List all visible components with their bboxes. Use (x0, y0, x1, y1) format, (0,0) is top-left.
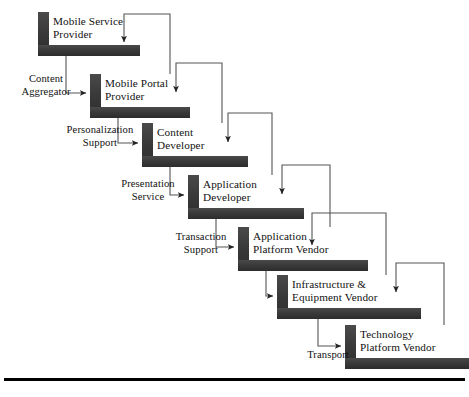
stage-label-mobile-portal-provider: Mobile PortalProvider (105, 77, 168, 104)
flow-label-line1-transaction-support: Transaction (155, 230, 247, 243)
stage-label-line2-infrastructure-equipment-vendor: Equipment Vendor (292, 291, 378, 304)
stage-label-line2-content-developer: Developer (157, 139, 205, 152)
bottom-rule (4, 378, 465, 381)
stage-bar-foot-application-developer (188, 208, 304, 219)
flow-label-transaction-support: TransactionSupport (155, 230, 247, 256)
flow-connector-equipment-link (266, 271, 273, 296)
stage-label-line1-mobile-service-provider: Mobile Service (53, 15, 123, 28)
flow-label-line1-content-aggregator: Content (8, 72, 84, 85)
stage-label-line1-application-platform-vendor: Application (253, 230, 329, 243)
stage-label-line2-application-developer: Developer (203, 191, 257, 204)
stage-label-line1-technology-platform-vendor: Technology (360, 328, 436, 341)
flow-connector-transport (318, 319, 341, 346)
stage-label-line2-mobile-service-provider: Provider (53, 28, 123, 41)
stage-label-line1-infrastructure-equipment-vendor: Infrastructure & (292, 278, 378, 291)
flow-label-transport: Transport (292, 348, 364, 361)
stage-label-application-developer: ApplicationDeveloper (203, 178, 257, 205)
stage-bar-foot-application-platform-vendor (238, 260, 368, 271)
stage-label-application-platform-vendor: ApplicationPlatform Vendor (253, 230, 329, 257)
flow-label-line1-personalization-support: Personalization (48, 123, 152, 136)
flow-label-line1-transport: Transport (292, 348, 364, 361)
stage-label-line1-content-developer: Content (157, 126, 205, 139)
flow-label-line2-transaction-support: Support (155, 243, 247, 256)
stage-label-content-developer: ContentDeveloper (157, 126, 205, 153)
stage-label-infrastructure-equipment-vendor: Infrastructure &Equipment Vendor (292, 278, 378, 305)
flow-label-line2-content-aggregator: Aggregator (8, 85, 84, 98)
flow-label-line2-personalization-support: Support (48, 136, 152, 149)
flow-label-line2-presentation-service: Service (100, 190, 196, 203)
flow-label-presentation-service: PresentationService (100, 177, 196, 203)
stage-label-line2-application-platform-vendor: Platform Vendor (253, 243, 329, 256)
stage-label-line1-application-developer: Application (203, 178, 257, 191)
flow-label-line1-presentation-service: Presentation (100, 177, 196, 190)
stage-label-line1-mobile-portal-provider: Mobile Portal (105, 77, 168, 90)
value-chain-diagram: Mobile ServiceProviderMobile PortalProvi… (0, 0, 469, 397)
flow-label-personalization-support: PersonalizationSupport (48, 123, 152, 149)
stage-label-mobile-service-provider: Mobile ServiceProvider (53, 15, 123, 42)
stage-bar-foot-mobile-portal-provider (90, 107, 190, 118)
stage-label-line2-technology-platform-vendor: Platform Vendor (360, 341, 436, 354)
stage-bar-foot-mobile-service-provider (38, 45, 140, 56)
stage-bar-foot-infrastructure-equipment-vendor (277, 308, 421, 319)
feedback-connector-feedback-portal-to-service (124, 14, 170, 74)
flow-label-content-aggregator: ContentAggregator (8, 72, 84, 98)
stage-label-line2-mobile-portal-provider: Provider (105, 90, 168, 103)
bottom-rule-layer (4, 378, 465, 381)
stage-bar-foot-content-developer (142, 156, 248, 167)
stage-label-technology-platform-vendor: TechnologyPlatform Vendor (360, 328, 436, 355)
